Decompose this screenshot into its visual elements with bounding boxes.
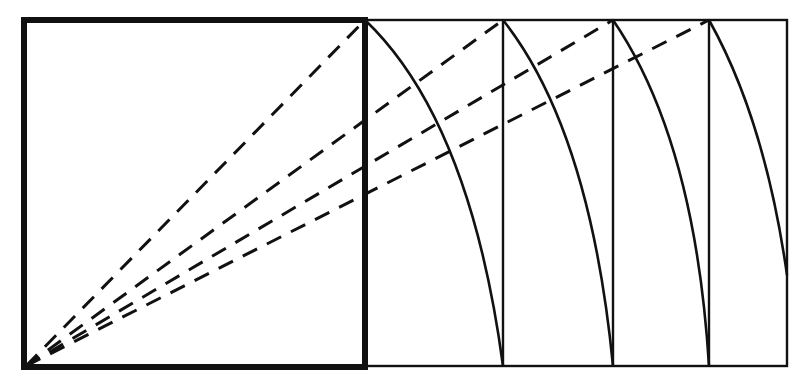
arc-2 [503,20,613,366]
dashed-diagonal-2 [26,20,503,366]
golden-ratio-diagram [0,0,799,387]
dashed-diagonal-3 [26,20,613,366]
outer-rectangle [365,20,787,366]
arc-3 [613,20,709,366]
dashed-diagonal-1 [26,20,365,366]
arc-4 [709,20,787,275]
arc-1 [365,20,503,366]
